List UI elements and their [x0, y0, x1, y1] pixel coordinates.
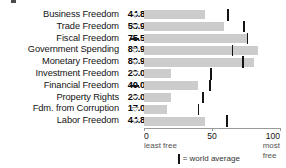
bar-track	[144, 80, 280, 92]
triangle-glyph	[131, 119, 139, 124]
world-average-tick	[226, 115, 228, 126]
dash-glyph	[130, 38, 139, 40]
bar	[144, 34, 247, 43]
bar	[144, 93, 171, 102]
bar-track	[144, 21, 280, 33]
world-average-tick	[227, 9, 229, 20]
triangle-glyph	[131, 48, 139, 53]
row-label-government-spending: Government Spending	[28, 44, 119, 56]
triangle-glyph	[131, 60, 139, 65]
world-average-tick	[232, 45, 234, 56]
world-average-tick	[242, 56, 244, 67]
bar-track	[144, 103, 280, 115]
triangle-glyph	[131, 95, 139, 100]
axis-tick-label: 100	[266, 131, 280, 141]
trend-down-icon	[130, 103, 141, 115]
dash-glyph	[130, 85, 139, 87]
bar	[144, 46, 258, 55]
row-label-business-freedom: Business Freedom	[43, 9, 119, 21]
trend-down-icon	[130, 44, 141, 56]
bar-track	[144, 115, 280, 127]
row-label-labor-freedom: Labor Freedom	[57, 115, 119, 127]
bar-track	[144, 44, 280, 56]
bar	[144, 10, 205, 19]
triangle-glyph	[131, 71, 139, 76]
row-label-financial-freedom: Financial Freedom	[44, 80, 119, 92]
axis-tick	[280, 128, 281, 131]
world-average-tick	[210, 68, 212, 79]
row-label-fdm-from-corruption: Fdm. from Corruption	[33, 103, 119, 115]
world-average-tick	[202, 92, 204, 103]
world-average-tick	[243, 21, 245, 32]
triangle-glyph	[131, 107, 139, 112]
bar-track	[144, 56, 280, 68]
world-average-tick	[247, 33, 249, 44]
legend: = world average	[178, 153, 240, 165]
world-average-tick-icon	[178, 154, 180, 164]
bar-track	[144, 33, 280, 45]
cropped-top-element	[11, 0, 16, 3]
bar	[144, 22, 224, 31]
bar-track	[144, 68, 280, 80]
triangle-glyph	[131, 13, 139, 18]
axis-tick-label: 0	[144, 131, 149, 141]
bar	[144, 69, 171, 78]
bar-track	[144, 9, 280, 21]
row-label-property-rights: Property Rights	[56, 92, 119, 104]
bar	[144, 81, 198, 90]
trend-down-icon	[130, 68, 141, 80]
bar	[144, 117, 205, 126]
row-label-monetary-freedom: Monetary Freedom	[42, 56, 119, 68]
trend-down-icon	[130, 115, 141, 127]
row-label-trade-freedom: Trade Freedom	[57, 21, 119, 33]
trend-down-icon	[130, 92, 141, 104]
row-label-fiscal-freedom: Fiscal Freedom	[56, 33, 119, 45]
freedom-index-chart: Business Freedom44.8Trade Freedom58.9Fis…	[0, 0, 286, 168]
bar	[144, 105, 167, 114]
axis-label-most-free: most free	[263, 141, 280, 161]
trend-down-icon	[130, 21, 141, 33]
trend-down-icon	[130, 9, 141, 21]
axis-tick-label: 50	[207, 131, 217, 141]
trend-flat-icon	[130, 80, 141, 92]
axis-label-least-free: least free	[144, 141, 177, 151]
world-average-tick	[209, 80, 211, 91]
legend-label: = world average	[183, 154, 240, 164]
plot-area	[144, 9, 280, 127]
bar-track	[144, 92, 280, 104]
row-label-investment-freedom: Investment Freedom	[36, 68, 119, 80]
trend-down-icon	[130, 56, 141, 68]
triangle-glyph	[131, 24, 139, 29]
world-average-tick	[198, 104, 200, 115]
trend-flat-icon	[130, 33, 141, 45]
bar	[144, 58, 254, 67]
